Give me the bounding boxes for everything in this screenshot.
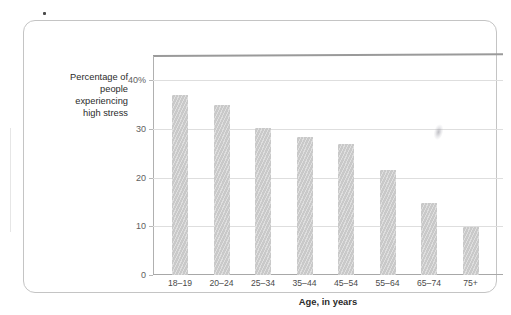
x-tick-label: 65–74 <box>406 278 452 288</box>
y-tick-label: 40% <box>128 75 146 85</box>
scan-speck-mark <box>43 12 46 15</box>
y-axis-title: Percentage of people experiencing high s… <box>42 72 128 120</box>
scanned-figure-page: Percentage of people experiencing high s… <box>0 0 511 315</box>
y-tick-label: 0 <box>141 270 146 280</box>
x-tick-label: 25–34 <box>240 278 286 288</box>
bar <box>421 203 437 275</box>
y-tick-label: 20 <box>136 173 146 183</box>
x-tick-label: 20–24 <box>199 278 245 288</box>
y-tick-mark <box>149 275 153 276</box>
bar <box>214 105 230 275</box>
figure-card: Percentage of people experiencing high s… <box>23 20 497 293</box>
bars-group <box>153 56 503 275</box>
y-tick-label: 30 <box>136 124 146 134</box>
bar <box>463 227 479 275</box>
scan-edge-artifact <box>10 128 11 232</box>
x-tick-label: 18–19 <box>157 278 203 288</box>
bar <box>297 137 313 275</box>
x-tick-label: 55–64 <box>365 278 411 288</box>
x-axis-title: Age, in years <box>153 296 503 307</box>
bar <box>255 128 271 275</box>
x-tick-label: 35–44 <box>282 278 328 288</box>
bar <box>380 170 396 275</box>
y-tick-label: 10 <box>136 221 146 231</box>
plot-area: 010203040% 18–1920–2425–3435–4445–5455–6… <box>153 56 503 275</box>
bar <box>172 95 188 275</box>
bar <box>338 144 354 275</box>
x-tick-label: 75+ <box>448 278 494 288</box>
x-tick-label: 45–54 <box>323 278 369 288</box>
